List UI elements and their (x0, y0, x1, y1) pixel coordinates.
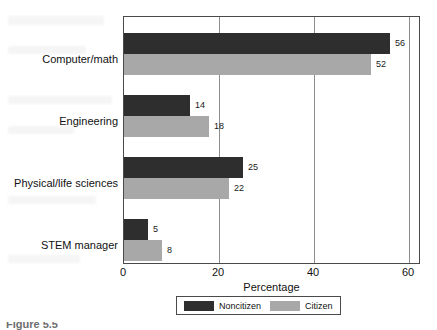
bar-physical-life-sciences-noncitizen (124, 157, 243, 178)
category-label-computer-math: Computer/math (0, 53, 118, 65)
bar-engineering-citizen (124, 116, 209, 137)
legend-swatch-citizen (270, 301, 300, 311)
bar-computer-math-citizen (124, 54, 371, 75)
x-axis-title: Percentage (123, 281, 420, 293)
bar-stem-manager-citizen (124, 240, 162, 261)
legend-item-noncitizen: Noncitizen (184, 301, 261, 311)
category-label-engineering: Engineering (0, 115, 118, 127)
category-label-physical-life-sciences: Physical/life sciences (0, 177, 118, 189)
chart-legend: Noncitizen Citizen (176, 296, 341, 315)
bar-value-computer-math-noncitizen: 56 (395, 39, 405, 48)
figure-caption-text: Figure 5.5 (6, 322, 58, 330)
bar-engineering-noncitizen (124, 95, 190, 116)
figure-caption: Figure 5.5 (6, 322, 156, 330)
category-axis-labels: Computer/math Engineering Physical/life … (0, 16, 118, 264)
legend-item-citizen: Citizen (270, 301, 333, 311)
bar-group-engineering: 14 18 (124, 95, 419, 157)
x-tick-0: 0 (120, 266, 126, 278)
bar-value-engineering-citizen: 18 (214, 122, 224, 131)
bar-chart-figure: Computer/math Engineering Physical/life … (0, 0, 437, 330)
bar-value-stem-manager-noncitizen: 5 (153, 225, 158, 234)
category-label-stem-manager: STEM manager (0, 239, 118, 251)
bar-value-stem-manager-citizen: 8 (167, 246, 172, 255)
bar-group-computer-math: 56 52 (124, 33, 419, 95)
x-tick-40: 40 (307, 266, 319, 278)
bar-stem-manager-noncitizen (124, 219, 148, 240)
bar-value-engineering-noncitizen: 14 (195, 101, 205, 110)
legend-label-citizen: Citizen (305, 301, 333, 311)
bar-computer-math-noncitizen (124, 33, 390, 54)
legend-label-noncitizen: Noncitizen (219, 301, 261, 311)
plot-area: 56 52 14 18 25 22 5 8 (123, 16, 420, 264)
bar-value-physical-life-sciences-noncitizen: 25 (248, 163, 258, 172)
bar-group-physical-life-sciences: 25 22 (124, 157, 419, 219)
x-tick-20: 20 (212, 266, 224, 278)
bar-value-physical-life-sciences-citizen: 22 (234, 184, 244, 193)
bar-value-computer-math-citizen: 52 (376, 60, 386, 69)
x-axis-ticks: 0 20 40 60 (123, 266, 420, 282)
legend-swatch-noncitizen (184, 301, 214, 311)
bar-physical-life-sciences-citizen (124, 178, 229, 199)
x-tick-60: 60 (402, 266, 414, 278)
